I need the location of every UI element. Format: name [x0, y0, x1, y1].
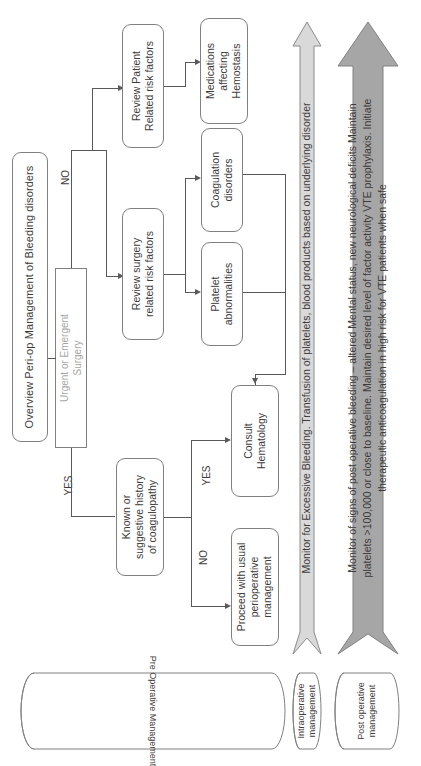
page-title: Overview Peri-op Management of Bleeding …	[23, 166, 37, 429]
connector-spine-to-consult	[255, 374, 286, 375]
coagulation-label: Coagulation disorders	[209, 152, 235, 208]
connector-urgent-stem	[48, 358, 56, 359]
connector-yes-to-consult	[191, 440, 227, 441]
arrowhead-into-consult-top	[252, 378, 258, 384]
connector-no-to-review-surgery	[71, 150, 107, 151]
phase-cylinder-post-operative: Post operative management	[334, 672, 400, 750]
connector-rightstack-spine	[285, 174, 286, 374]
consult-hematology-label: Consult Hematology	[242, 413, 268, 469]
edge-label-yes-urgent: YES	[58, 480, 78, 491]
connector-coag-to-spine	[243, 174, 286, 175]
phase-post-operative-label: Post operative management	[356, 682, 378, 740]
connector-no-to-proceed	[191, 606, 227, 607]
urgent-surgery-label: Urgent or Emergent Surgery	[59, 314, 84, 402]
postoperative-arrow-text: Monitor of signs of post operative bleed…	[345, 99, 391, 578]
connector-no-to-review-patient	[92, 88, 120, 89]
review-surgery-label: Review surgery related risk factors	[130, 231, 156, 317]
edge-label-no-known: NO	[196, 552, 211, 563]
phase-pre-operative-label: Pre Operative Management	[148, 656, 159, 766]
connector-known-fan	[191, 440, 192, 606]
platelet-label: Platelet abnormalities	[209, 263, 235, 325]
node-known-suggestive-history: Known or suggestive history of coagulopa…	[116, 458, 164, 576]
node-platelet-abnormalities: Platelet abnormalities	[201, 242, 243, 346]
diagram-title-box: Overview Peri-op Management of Bleeding …	[12, 152, 48, 442]
connector-patient-out	[164, 86, 186, 87]
phase-cylinder-pre-operative: Pre Operative Management	[20, 672, 286, 750]
review-patient-label: Review Patient Related risk factors	[130, 41, 156, 131]
connector-surgery-fan	[185, 178, 186, 292]
edge-label-yes-known: YES	[196, 470, 216, 481]
connector-yes-to-known-history	[71, 516, 115, 517]
intraoperative-arrow-text: Monitor for Excessive Bleeding. Transfus…	[299, 102, 314, 573]
node-medications-affecting-hemostasis: Medications affecting Hemostasis	[200, 18, 248, 124]
connector-urgent-spine	[71, 150, 72, 268]
postoperative-block-arrow: Monitor of signs of post operative bleed…	[336, 20, 400, 656]
connector-surgery-out	[164, 274, 186, 275]
decision-urgent-or-emergent-surgery: Urgent or Emergent Surgery	[55, 268, 87, 448]
phase-cylinder-intraoperative: Intraoperative management	[292, 672, 322, 750]
connector-urgent-spine-low	[71, 448, 72, 516]
connector-patient-fan	[185, 62, 186, 86]
phase-intraoperative-label: Intraoperative management	[296, 683, 318, 738]
intraoperative-block-arrow: Monitor for Excessive Bleeding. Transfus…	[292, 20, 322, 656]
known-history-label: Known or suggestive history of coagulopa…	[120, 475, 159, 559]
connector-known-out	[164, 517, 192, 518]
node-coagulation-disorders: Coagulation disorders	[201, 128, 243, 232]
node-proceed-usual-perioperative: Proceed with usual perioperative managem…	[231, 528, 279, 646]
connector-no-riser2	[92, 88, 93, 150]
node-review-patient-risk-factors: Review Patient Related risk factors	[122, 24, 164, 148]
connector-plat-to-spine	[243, 292, 286, 293]
node-review-surgery-risk-factors: Review surgery related risk factors	[122, 208, 164, 340]
medications-label: Medications affecting Hemostasis	[204, 43, 243, 99]
connector-no-riser	[106, 150, 107, 276]
node-consult-hematology: Consult Hematology	[231, 385, 279, 497]
proceed-usual-label: Proceed with usual perioperative managem…	[235, 543, 274, 632]
